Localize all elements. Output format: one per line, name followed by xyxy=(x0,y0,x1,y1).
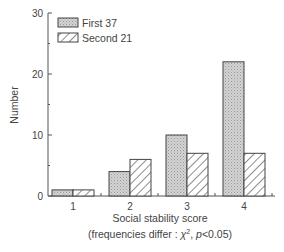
x-axis-label: Social stability score xyxy=(112,212,207,224)
x-tick-label: 1 xyxy=(70,201,76,212)
legend-label: Second 21 xyxy=(82,32,132,44)
x-axis-note: (frequencies differ : χ2, p<0.05) xyxy=(88,228,232,240)
legend-swatch xyxy=(58,18,78,27)
legend-swatch xyxy=(58,33,78,42)
y-tick-label: 20 xyxy=(32,69,44,80)
bar xyxy=(166,135,187,196)
x-tick-label: 3 xyxy=(184,201,190,212)
bar xyxy=(187,153,208,196)
x-tick-label: 4 xyxy=(241,201,247,212)
bar xyxy=(109,172,130,196)
bar xyxy=(244,153,265,196)
x-tick-label: 2 xyxy=(127,201,133,212)
legend-label: First 37 xyxy=(82,17,117,29)
y-tick-label: 10 xyxy=(32,130,44,141)
bar xyxy=(52,190,73,196)
bar xyxy=(223,62,244,196)
bar xyxy=(130,159,151,196)
y-tick-label: 30 xyxy=(32,8,44,19)
bars xyxy=(52,62,265,196)
bar-chart: 01020301234 First 37Second 21 Number Soc… xyxy=(0,0,284,252)
y-tick-label: 0 xyxy=(37,191,43,202)
legend: First 37Second 21 xyxy=(58,17,132,44)
y-axis-label: Number xyxy=(8,86,20,124)
bar xyxy=(73,190,94,196)
